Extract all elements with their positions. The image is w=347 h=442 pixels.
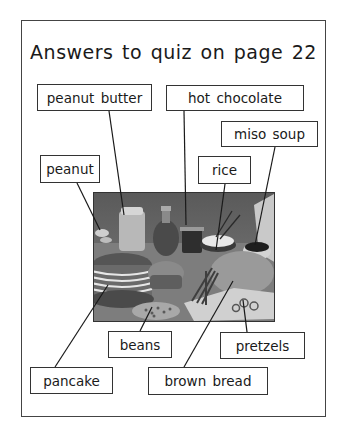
label-pancake: pancake: [30, 367, 113, 394]
label-rice: rice: [198, 156, 251, 184]
label-beans: beans: [108, 331, 172, 358]
label-brown-bread: brown bread: [148, 367, 268, 395]
label-peanut-butter: peanut butter: [37, 84, 152, 111]
food-photo: [93, 192, 275, 322]
label-hot-chocolate: hot chocolate: [166, 85, 304, 111]
food-photo-image: [94, 193, 275, 322]
page-title: Answers to quiz on page 22: [21, 41, 326, 63]
label-pretzels: pretzels: [220, 332, 305, 359]
label-miso-soup: miso soup: [221, 121, 318, 147]
label-peanut: peanut: [40, 155, 100, 183]
